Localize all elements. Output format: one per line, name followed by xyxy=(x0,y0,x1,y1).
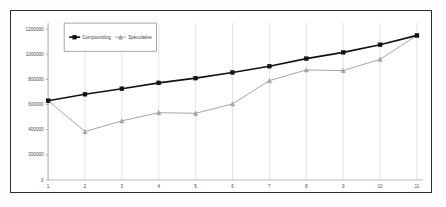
data-point-marker[interactable] xyxy=(83,92,87,96)
x-axis-tick-labels: 1234567891011 xyxy=(47,184,420,189)
chart-plot-canvas[interactable]: 020000040000060000080000010000001200000 … xyxy=(11,11,431,192)
y-axis-tick-label: 200000 xyxy=(28,152,44,157)
y-axis-tick-label: 1000000 xyxy=(26,52,44,57)
x-axis-tick-label: 11 xyxy=(415,184,420,189)
data-point-marker[interactable] xyxy=(194,76,198,80)
x-axis-tick-label: 2 xyxy=(84,184,87,189)
y-axis-tick-label: 600000 xyxy=(28,102,44,107)
chart-outer-frame: 020000040000060000080000010000001200000 … xyxy=(10,10,432,193)
data-point-marker[interactable] xyxy=(415,33,419,37)
legend-entry[interactable]: Compounding xyxy=(69,35,111,40)
legend-entry[interactable]: Speculative xyxy=(115,35,152,40)
data-point-marker[interactable] xyxy=(157,81,161,85)
data-point-marker[interactable] xyxy=(231,70,235,74)
data-point-marker[interactable] xyxy=(120,87,124,91)
chart-legend[interactable]: CompoundingSpeculative xyxy=(64,23,156,51)
data-point-marker[interactable] xyxy=(341,50,345,54)
data-point-marker[interactable] xyxy=(378,43,382,47)
x-axis-tick-label: 6 xyxy=(231,184,234,189)
y-axis-tick-labels: 020000040000060000080000010000001200000 xyxy=(26,27,44,183)
data-point-marker[interactable] xyxy=(46,99,50,103)
x-axis-tick-label: 9 xyxy=(342,184,345,189)
y-axis-tick-label: 0 xyxy=(41,178,44,183)
x-axis-tick-label: 3 xyxy=(121,184,124,189)
chart-figure: 020000040000060000080000010000001200000 … xyxy=(0,0,446,207)
data-point-marker[interactable] xyxy=(267,64,271,68)
legend-label: Compounding xyxy=(82,35,111,40)
y-axis-tick-label: 800000 xyxy=(28,77,44,82)
legend-marker-square[interactable] xyxy=(73,35,77,39)
x-axis-tick-label: 8 xyxy=(305,184,308,189)
x-axis-tick-label: 1 xyxy=(47,184,50,189)
y-axis-tick-label: 1200000 xyxy=(26,27,44,32)
legend-label: Speculative xyxy=(128,35,152,40)
x-axis-tick-label: 10 xyxy=(378,184,384,189)
x-axis-tick-label: 4 xyxy=(157,184,160,189)
line-chart-svg[interactable]: 020000040000060000080000010000001200000 … xyxy=(11,11,431,192)
x-axis-tick-label: 5 xyxy=(194,184,197,189)
y-axis-tick-label: 400000 xyxy=(28,127,44,132)
x-axis-tick-label: 7 xyxy=(268,184,271,189)
data-point-marker[interactable] xyxy=(304,57,308,61)
